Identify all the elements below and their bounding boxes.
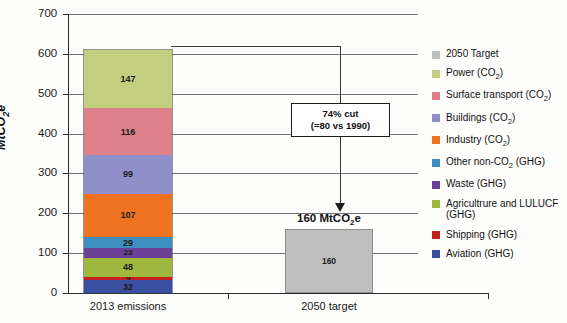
legend-item-shipping[interactable]: Shipping (GHG) — [432, 229, 564, 241]
y-tick-label: 300 — [17, 166, 57, 178]
y-tick-label: 700 — [17, 7, 57, 19]
legend-label: Buildings (CO2) — [446, 112, 515, 127]
bar-2013-emissions[interactable]: 32948232910799116147 — [84, 14, 172, 293]
legend-label: Agricultrure and LULUCF (GHG) — [446, 198, 564, 222]
legend-item-waste[interactable]: Waste (GHG) — [432, 178, 564, 190]
legend-swatch-icon — [432, 136, 440, 144]
legend-label: 2050 Target — [446, 48, 499, 60]
y-tick-label: 400 — [17, 127, 57, 139]
legend-label: Shipping (GHG) — [446, 229, 517, 241]
legend-item-surface-transport[interactable]: Surface transport (CO2) — [432, 89, 564, 104]
chart-figure: 7006005004003002001000 MtCO2e 3294823291… — [0, 0, 567, 323]
y-axis-label: MtCO2e — [0, 105, 11, 150]
legend-swatch-icon — [432, 51, 440, 59]
legend-label: Power (CO2) — [446, 67, 503, 82]
y-tick-label: 500 — [17, 87, 57, 99]
y-tick-mark — [63, 173, 68, 174]
legend-label: Surface transport (CO2) — [446, 89, 551, 104]
stacked-bar: 32948232910799116147 — [84, 50, 172, 293]
legend-swatch-icon — [432, 92, 440, 100]
legend-swatch-icon — [432, 70, 440, 78]
y-tick-mark — [63, 134, 68, 135]
legend-label: Waste (GHG) — [446, 178, 506, 190]
legend-label: Aviation (GHG) — [446, 248, 514, 260]
legend-swatch-icon — [432, 159, 440, 167]
target-bar-rect: 160 — [285, 229, 373, 293]
y-tick-label: 200 — [17, 206, 57, 218]
stack-segment: 147 — [84, 50, 172, 109]
leader-line-horizontal — [171, 46, 341, 47]
legend-label: Industry (CO2) — [446, 134, 510, 149]
legend-swatch-icon — [432, 231, 440, 239]
y-tick-mark — [63, 94, 68, 95]
bar-2050-target[interactable]: 160 MtCO2e 160 — [285, 14, 373, 293]
legend-item-agriculture-lulucf[interactable]: Agricultrure and LULUCF (GHG) — [432, 198, 564, 222]
y-axis-line — [68, 14, 69, 293]
callout-line-1: 74% cut — [323, 108, 359, 120]
y-tick-mark — [63, 14, 68, 15]
stack-segment: 23 — [84, 248, 172, 257]
x-tick-mark — [488, 293, 489, 299]
target-bar-value: 160 — [322, 256, 336, 266]
legend-swatch-icon — [432, 200, 440, 208]
y-tick-label: 0 — [17, 286, 57, 298]
target-bar-caption: 160 MtCO2e — [263, 212, 395, 227]
y-tick-mark — [63, 253, 68, 254]
legend-item-other-non-co2[interactable]: Other non-CO2 (GHG) — [432, 156, 564, 171]
y-tick-mark — [63, 213, 68, 214]
y-tick-mark — [63, 54, 68, 55]
y-tick-label: 100 — [17, 246, 57, 258]
legend-swatch-icon — [432, 114, 440, 122]
x-axis-label: 2050 target — [259, 300, 399, 312]
legend-item-aviation[interactable]: Aviation (GHG) — [432, 248, 564, 260]
stack-segment: 32 — [84, 280, 172, 293]
stack-segment: 107 — [84, 194, 172, 237]
legend-item-2050-target[interactable]: 2050 Target — [432, 48, 564, 60]
legend-label: Other non-CO2 (GHG) — [446, 156, 545, 171]
legend-item-buildings[interactable]: Buildings (CO2) — [432, 112, 564, 127]
y-tick-label: 600 — [17, 47, 57, 59]
stack-segment: 116 — [84, 108, 172, 154]
stack-segment: 99 — [84, 155, 172, 194]
callout-line-2: (=80 vs 1990) — [311, 120, 370, 132]
stack-segment: 9 — [84, 277, 172, 281]
x-tick-mark — [228, 293, 229, 299]
callout-box: 74% cut (=80 vs 1990) — [291, 103, 390, 137]
legend-item-industry[interactable]: Industry (CO2) — [432, 134, 564, 149]
legend-swatch-icon — [432, 250, 440, 258]
stack-segment: 48 — [84, 258, 172, 277]
legend-swatch-icon — [432, 181, 440, 189]
down-arrow-icon — [335, 203, 345, 212]
legend-item-power[interactable]: Power (CO2) — [432, 67, 564, 82]
y-tick-mark — [63, 293, 68, 294]
x-axis-line — [68, 293, 488, 294]
x-axis-label: 2013 emissions — [58, 300, 198, 312]
stack-segment: 29 — [84, 237, 172, 249]
chart-legend: 2050 TargetPower (CO2)Surface transport … — [432, 48, 564, 267]
